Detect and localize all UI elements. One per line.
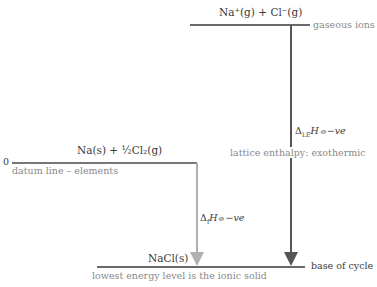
zero-label: 0 [3,156,9,167]
h-term: H⦵−ve [310,125,345,136]
base-of-cycle-label: base of cycle [311,260,373,271]
middle-level-species: Na(s) + ½Cl₂(g) [77,144,162,156]
lattice-enthalpy-label: lattice enthalpy: exothermic [228,147,368,158]
formation-enthalpy-symbol: ΔfH⦵−ve [200,212,244,225]
h-term: H⦵−ve [209,212,244,223]
species-main: Na(s) + [77,144,122,156]
datum-line-label: datum line – elements [12,165,118,176]
bottom-level-line [97,266,305,268]
lattice-enthalpy-arrow-shaft [290,25,292,255]
top-level-species: Na⁺(g) + Cl⁻(g) [219,6,302,18]
bottom-level-label: lowest energy level is the ionic solid [92,270,267,281]
top-level-label: gaseous ions [313,19,375,30]
delta: Δ [200,212,207,223]
species-frac: ½ [122,144,132,156]
lattice-enthalpy-symbol: ΔLEH⦵−ve [295,125,346,138]
formation-arrowhead-icon [190,252,204,266]
formation-enthalpy-arrow-shaft [196,163,198,255]
species-tail: Cl₂(g) [132,144,163,156]
datum-line [12,162,197,164]
top-level-line [190,24,310,26]
lattice-arrowhead-icon [284,252,298,266]
bottom-level-species: NaCl(s) [148,252,188,264]
delta: Δ [295,125,302,136]
